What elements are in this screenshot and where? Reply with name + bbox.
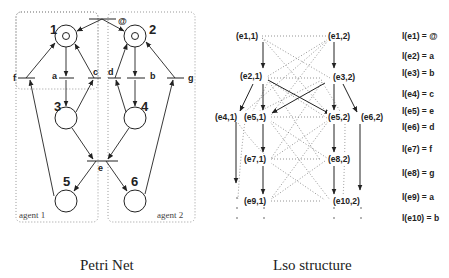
agent-2-label: agent 2 [157, 210, 183, 220]
place-2 [124, 25, 146, 47]
transition-b-label: b [150, 71, 156, 81]
place-4-label: 4 [141, 99, 149, 114]
transition-at-label: @ [118, 16, 127, 26]
place-6 [124, 190, 146, 212]
place-5 [55, 190, 77, 212]
place-2-label: 2 [149, 22, 156, 37]
transition-c-label: c [93, 67, 98, 77]
label-e3: l(e3) = b [402, 68, 434, 78]
label-e1: l(e1) = @ [402, 31, 437, 41]
label-e9: l(e9) = a [402, 192, 434, 202]
diagram-canvas: agent 1 agent 2 1 2 3 4 5 6 @ f a c d b … [0, 0, 449, 278]
lso-caption: Lso structure [273, 257, 352, 273]
event-e8-2: (e8,2) [328, 154, 350, 164]
transition-a-label: a [52, 71, 58, 81]
petri-net-caption: Petri Net [80, 257, 135, 273]
event-e4-1: (e4,1) [215, 112, 237, 122]
agent-2-region [108, 12, 195, 222]
event-e5-2: (e5,2) [328, 112, 350, 122]
transition-e-label: e [98, 163, 103, 173]
transition-d-label: d [108, 67, 114, 77]
label-e6: l(e6) = d [402, 122, 434, 132]
place-3-label: 3 [54, 99, 61, 114]
transition-f-label: f [13, 73, 17, 83]
event-e1-1: (e1,1) [236, 31, 258, 41]
place-5-label: 5 [63, 174, 70, 189]
event-e5-1: (e5,1) [244, 112, 266, 122]
event-e2-1: (e2,1) [240, 71, 262, 81]
event-e10-2: (e10,2) [333, 196, 360, 206]
label-e5: l(e5) = e [402, 106, 434, 116]
transition-g-label: g [188, 73, 194, 83]
label-e4: l(e4) = c [402, 89, 434, 99]
place-1-label: 1 [50, 22, 57, 37]
place-6-label: 6 [131, 174, 138, 189]
event-e3-2: (e3,2) [333, 72, 355, 82]
event-e7-1: (e7,1) [244, 154, 266, 164]
lso-label-function: l(e1) = @ l(e2) = a l(e3) = b l(e4) = c … [402, 31, 439, 223]
label-e10: l(e10) = b [402, 213, 439, 223]
label-e8: l(e8) = g [402, 168, 434, 178]
label-e7: l(e7) = f [402, 144, 432, 154]
place-1 [55, 25, 77, 47]
event-e1-2: (e1,2) [328, 31, 350, 41]
lso-events: (e1,1) (e1,2) (e2,1) (e3,2) (e4,1) (e5,1… [214, 30, 388, 207]
event-e9-1: (e9,1) [244, 196, 266, 206]
event-e6-2: (e6,2) [361, 112, 383, 122]
agent-1-label: agent 1 [19, 210, 45, 220]
label-e2: l(e2) = a [402, 51, 434, 61]
